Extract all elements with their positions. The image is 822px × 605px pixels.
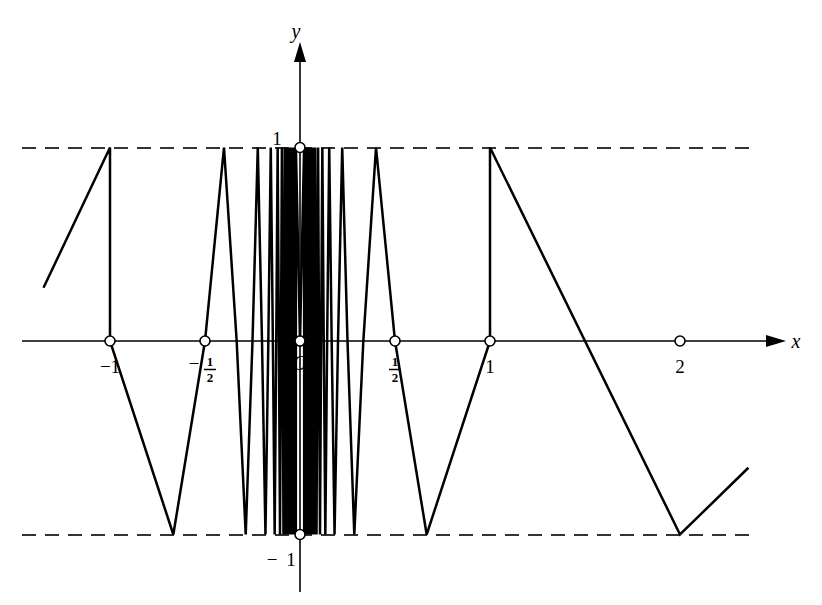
math-figure: x y O 1 − 1 −1−121212 — [0, 0, 822, 605]
x-tick-fraction-numerator-1: 1 — [207, 354, 214, 369]
y-axis-label: y — [290, 20, 301, 43]
svg-text:−: − — [267, 549, 278, 570]
x-tick-label-text-4: 1 — [485, 356, 495, 377]
x-tick-marker-3 — [390, 336, 400, 346]
marked-point-1 — [295, 530, 305, 540]
x-tick-label-5: 2 — [675, 356, 685, 377]
x-tick-label-sign-1: − — [189, 353, 200, 374]
x-tick-fraction-denominator-3: 2 — [392, 370, 399, 385]
origin-label: O — [293, 352, 307, 374]
x-tick-marker-5 — [675, 336, 685, 346]
y-tick-label-minus-1: − 1 — [267, 549, 296, 570]
y-axis-arrowhead — [294, 42, 306, 62]
x-tick-label-0: −1 — [100, 356, 120, 377]
x-tick-labels-group: −1−121212 — [100, 353, 685, 385]
x-tick-label-text-0: −1 — [100, 356, 120, 377]
x-tick-label-text-5: 2 — [675, 356, 685, 377]
x-tick-fraction-numerator-3: 1 — [392, 354, 399, 369]
x-axis-arrowhead — [766, 335, 786, 347]
x-tick-fraction-denominator-1: 2 — [207, 370, 214, 385]
marked-point-0 — [295, 143, 305, 153]
x-tick-label-4: 1 — [485, 356, 495, 377]
x-tick-marker-4 — [485, 336, 495, 346]
y-tick-label-1: 1 — [272, 128, 282, 149]
x-tick-marker-0 — [105, 336, 115, 346]
y-tick-label-minus-1-value: 1 — [286, 549, 296, 570]
x-axis-label: x — [791, 330, 801, 352]
x-tick-marker-1 — [200, 336, 210, 346]
x-tick-label-3: 12 — [389, 354, 401, 385]
marked-point-2 — [295, 336, 305, 346]
